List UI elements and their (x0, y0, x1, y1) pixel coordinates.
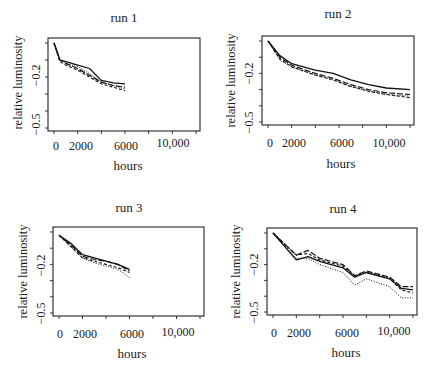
plot-run-3 (50, 227, 204, 319)
plot-frame (267, 228, 417, 315)
series-line-solid (54, 43, 125, 84)
series-line-dotted (54, 43, 125, 89)
plot-canvas (0, 0, 430, 369)
plot-run-1 (45, 38, 200, 134)
plot-run-2 (259, 36, 414, 128)
plot-frame (48, 38, 200, 131)
series-line-solid (59, 235, 130, 269)
series-line-long-dash (59, 235, 130, 271)
series-line-short-dash (273, 233, 413, 293)
series-line-dotted (59, 235, 130, 277)
series-line-long-dash (268, 41, 410, 95)
series-line-long-dash (273, 233, 413, 287)
plot-run-4 (264, 228, 417, 318)
series-line-short-dash (59, 235, 130, 272)
series-line-long-dash (54, 43, 125, 87)
series-line-short-dash (268, 41, 410, 98)
